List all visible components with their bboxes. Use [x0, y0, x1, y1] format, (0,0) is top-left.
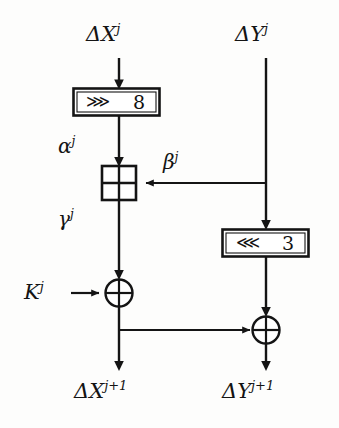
label-round-key: Kj: [24, 282, 44, 303]
label-alpha-j: αj: [58, 136, 75, 156]
label-beta-j-exp: j: [175, 149, 179, 164]
wire-deltaY-main: [261, 58, 271, 230]
xor-output-node[interactable]: [253, 317, 280, 344]
label-gamma-j-base: γ: [58, 207, 70, 231]
xor-key-node[interactable]: [106, 280, 133, 307]
label-alpha-j-base: α: [58, 134, 72, 158]
output-label-delta-y-next-exp: j+1: [251, 378, 274, 393]
label-beta-j: βj: [163, 152, 178, 172]
wire-gamma: [114, 200, 124, 280]
label-round-key-exp: j: [40, 279, 44, 294]
output-label-delta-y-next: ΔYj+1: [222, 381, 274, 402]
wire-deltaX-to-rotate8: [114, 58, 124, 90]
wire-rotate3-to-xor: [261, 257, 271, 318]
modular-addition-box[interactable]: [102, 166, 136, 200]
rotate-left-amount: 3: [282, 234, 294, 253]
output-label-delta-x-next-base: ΔX: [74, 379, 104, 403]
rotate-right-icon: ⋙: [86, 93, 107, 110]
output-label-delta-x-next-exp: j+1: [104, 378, 127, 393]
speck-round-diagram: [0, 0, 339, 428]
label-gamma-j-exp: j: [70, 206, 74, 221]
rotate-left-icon: ⋘: [236, 234, 257, 251]
input-label-delta-y-j-base: ΔY: [235, 22, 264, 46]
label-beta-j-base: β: [163, 150, 175, 174]
wire-to-deltaY-out: [261, 344, 271, 372]
input-label-delta-y-j-exp: j: [264, 21, 268, 36]
rotate-right-amount: 8: [133, 93, 145, 112]
input-label-delta-x-j-exp: j: [116, 21, 120, 36]
wire-alpha: [114, 116, 124, 168]
output-label-delta-x-next: ΔXj+1: [74, 381, 127, 402]
label-alpha-j-exp: j: [72, 133, 76, 148]
label-round-key-base: K: [24, 280, 40, 304]
input-label-delta-y-j: ΔYj: [235, 24, 268, 45]
wire-to-deltaX-out: [114, 307, 124, 372]
output-label-delta-y-next-base: ΔY: [222, 379, 251, 403]
input-label-delta-x-j-base: ΔX: [86, 22, 116, 46]
label-gamma-j: γj: [58, 209, 74, 229]
input-label-delta-x-j: ΔXj: [86, 24, 120, 45]
diagram-canvas: ΔXj ΔYj ⋙ 8 αj βj γj ⋘ 3 Kj ΔXj+1 ΔYj+1: [0, 0, 339, 428]
